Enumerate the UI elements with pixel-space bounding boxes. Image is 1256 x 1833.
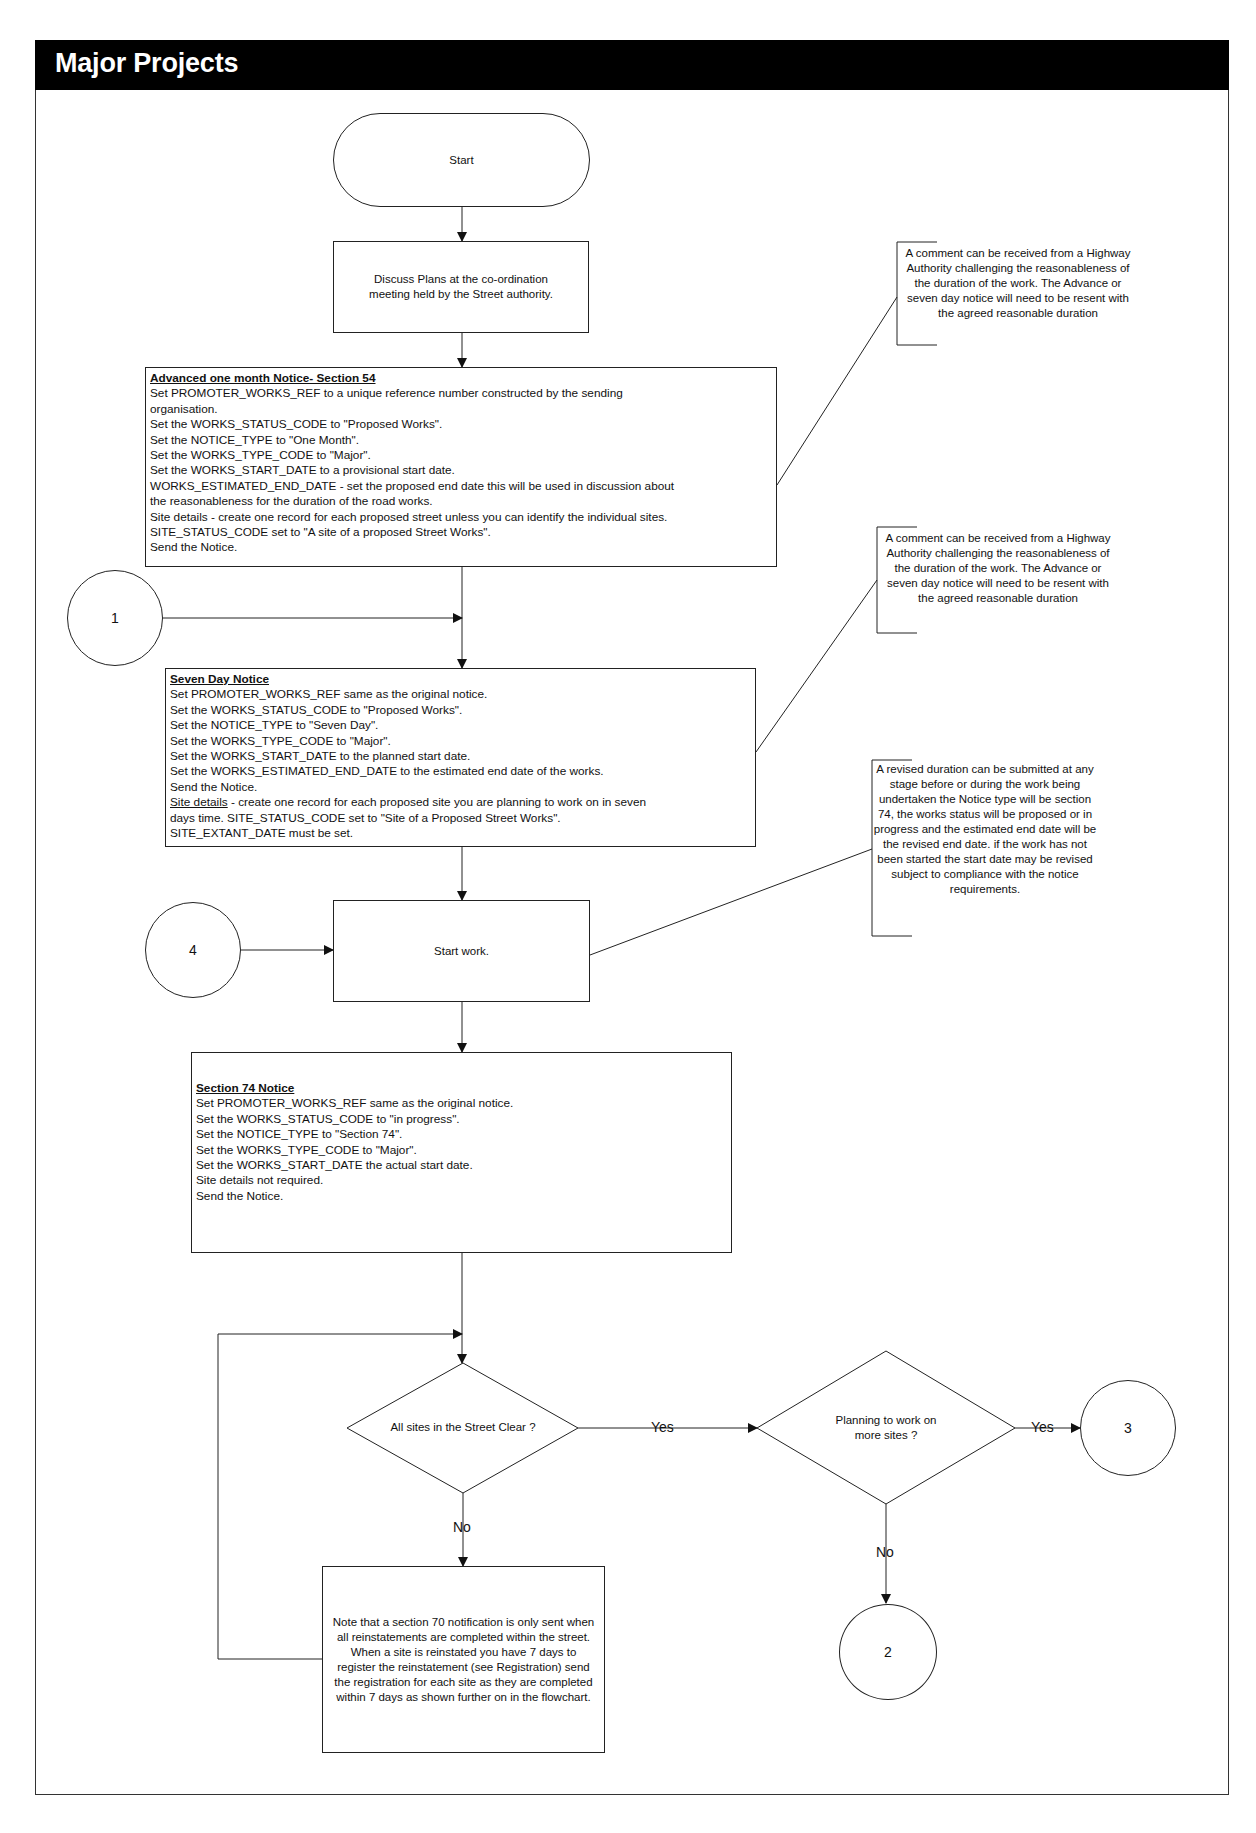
section70-note-label: Note that a section 70 notification is o… (331, 1615, 596, 1705)
advanced-notice-line: Send the Notice. (150, 540, 776, 555)
decision-more-sites-line2: more sites ? (796, 1428, 976, 1443)
comment-advanced-notice-text: A comment can be received from a Highway… (906, 247, 1131, 319)
advanced-notice-line: SITE_STATUS_CODE set to "A site of a pro… (150, 525, 776, 540)
comment-seven-day-notice: A comment can be received from a Highway… (882, 531, 1114, 606)
comment-seven-day-notice-text: A comment can be received from a Highway… (886, 532, 1111, 604)
section74-notice-line: Site details not required. (196, 1173, 731, 1188)
seven-day-site-details-line: Site details - create one record for eac… (170, 795, 755, 810)
seven-day-notice-line: Set the WORKS_ESTIMATED_END_DATE to the … (170, 764, 755, 779)
edge-label-more-sites-yes: Yes (1031, 1419, 1054, 1435)
section74-notice-line: Set the NOTICE_TYPE to "Section 74". (196, 1127, 731, 1142)
discuss-plans-box: Discuss Plans at the co-ordination meeti… (333, 241, 589, 333)
seven-day-notice-line: Set the NOTICE_TYPE to "Seven Day". (170, 718, 755, 733)
start-terminator: Start (333, 113, 590, 207)
advanced-notice-line: the reasonableness for the duration of t… (150, 494, 776, 509)
edge-label-more-sites-no: No (876, 1544, 894, 1560)
advanced-notice-line: Set PROMOTER_WORKS_REF to a unique refer… (150, 386, 776, 401)
discuss-plans-label: Discuss Plans at the co-ordination meeti… (362, 272, 560, 302)
connector-3-label: 3 (1124, 1420, 1132, 1436)
advanced-notice-line: WORKS_ESTIMATED_END_DATE - set the propo… (150, 479, 776, 494)
decision-all-sites-clear-label: All sites in the Street Clear ? (390, 1421, 535, 1433)
section74-notice-heading: Section 74 Notice (196, 1081, 731, 1096)
section74-notice-line: Set the WORKS_STATUS_CODE to "in progres… (196, 1112, 731, 1127)
section74-notice-box: Section 74 Notice Set PROMOTER_WORKS_REF… (191, 1052, 732, 1253)
start-work-box: Start work. (333, 900, 590, 1002)
advanced-notice-box: Advanced one month Notice- Section 54 Se… (145, 367, 777, 567)
advanced-notice-line: Site details - create one record for eac… (150, 510, 776, 525)
decision-all-sites-clear: All sites in the Street Clear ? (363, 1420, 563, 1435)
seven-day-notice-line: Set the WORKS_STATUS_CODE to "Proposed W… (170, 703, 755, 718)
site-details-text: - create one record for each proposed si… (228, 795, 646, 809)
seven-day-notice-line: Send the Notice. (170, 780, 755, 795)
decision-more-sites-line1: Planning to work on (796, 1413, 976, 1428)
connector-1-label: 1 (111, 610, 119, 626)
connector-circle-2: 2 (839, 1604, 937, 1700)
connector-4-label: 4 (189, 942, 197, 958)
decision-more-sites: Planning to work on more sites ? (796, 1413, 976, 1443)
seven-day-notice-line: days time. SITE_STATUS_CODE set to "Site… (170, 811, 755, 826)
edge-label-all-clear-yes: Yes (651, 1419, 674, 1435)
comment-revised-duration-text: A revised duration can be submitted at a… (874, 763, 1096, 895)
section74-notice-line: Set the WORKS_START_DATE the actual star… (196, 1158, 731, 1173)
connector-circle-4: 4 (145, 902, 241, 998)
advanced-notice-line: Set the NOTICE_TYPE to "One Month". (150, 433, 776, 448)
seven-day-notice-line: Set the WORKS_START_DATE to the planned … (170, 749, 755, 764)
section74-notice-line: Set the WORKS_TYPE_CODE to "Major". (196, 1143, 731, 1158)
section70-note-box: Note that a section 70 notification is o… (322, 1566, 605, 1753)
comment-revised-duration: A revised duration can be submitted at a… (873, 762, 1097, 897)
connector-circle-1: 1 (67, 570, 163, 666)
start-work-label: Start work. (434, 944, 489, 959)
advanced-notice-line: organisation. (150, 402, 776, 417)
seven-day-notice-line: Set the WORKS_TYPE_CODE to "Major". (170, 734, 755, 749)
start-label: Start (449, 153, 473, 168)
section74-notice-line: Set PROMOTER_WORKS_REF same as the origi… (196, 1096, 731, 1111)
site-details-link: Site details (170, 795, 228, 809)
connector-circle-3: 3 (1080, 1380, 1176, 1476)
seven-day-notice-line: SITE_EXTANT_DATE must be set. (170, 826, 755, 841)
comment-advanced-notice: A comment can be received from a Highway… (902, 246, 1134, 321)
connector-2-label: 2 (884, 1644, 892, 1660)
edge-label-all-clear-no: No (453, 1519, 471, 1535)
seven-day-notice-heading: Seven Day Notice (170, 672, 755, 687)
advanced-notice-line: Set the WORKS_TYPE_CODE to "Major". (150, 448, 776, 463)
section74-notice-line: Send the Notice. (196, 1189, 731, 1204)
seven-day-notice-line: Set PROMOTER_WORKS_REF same as the origi… (170, 687, 755, 702)
advanced-notice-line: Set the WORKS_STATUS_CODE to "Proposed W… (150, 417, 776, 432)
advanced-notice-line: Set the WORKS_START_DATE to a provisiona… (150, 463, 776, 478)
advanced-notice-heading: Advanced one month Notice- Section 54 (150, 371, 776, 386)
seven-day-notice-box: Seven Day Notice Set PROMOTER_WORKS_REF … (165, 668, 756, 847)
